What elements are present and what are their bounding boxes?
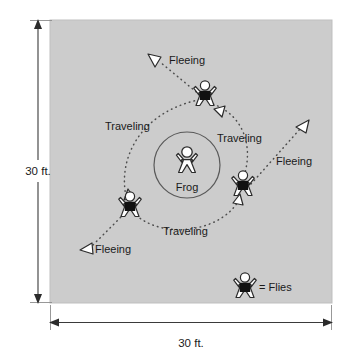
traveling-label-bottom: Traveling	[163, 225, 208, 237]
horizontal-dimension-label: 30 ft.	[178, 337, 204, 349]
traveling-label-left: Traveling	[105, 120, 150, 132]
traveling-label-right: Traveling	[217, 132, 262, 144]
frog-label: Frog	[176, 181, 199, 193]
vertical-dimension-label: 30 ft.	[25, 165, 51, 177]
fleeing-label-right: Fleeing	[276, 155, 312, 167]
fleeing-label-top-left: Fleeing	[169, 54, 205, 66]
fly-torso	[200, 91, 210, 100]
fly-torso	[125, 202, 135, 211]
fleeing-label-bottom-left: Fleeing	[95, 243, 131, 255]
legend-label: = Flies	[259, 281, 292, 293]
vertical-dimension: 30 ft.	[25, 19, 52, 304]
horizontal-dimension: 30 ft.	[49, 305, 333, 349]
diagram-stage: 30 ft. 30 ft. Frog	[0, 0, 345, 355]
fly-torso	[238, 181, 248, 190]
